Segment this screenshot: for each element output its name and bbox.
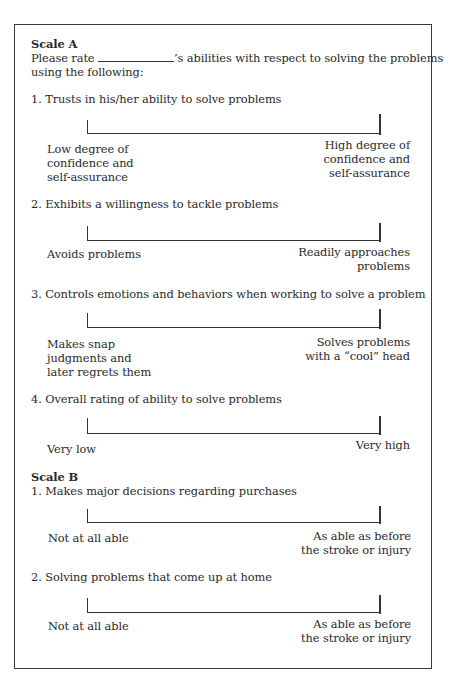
name-blank-field[interactable] xyxy=(98,51,174,62)
anchor-line: problems xyxy=(298,259,410,273)
scale-a-heading: Scale A xyxy=(31,37,77,51)
right-anchor-a4: Very high xyxy=(356,438,410,452)
item-number: 2. xyxy=(31,570,42,584)
anchor-line: High degree of xyxy=(323,138,410,152)
item-number: 2. xyxy=(31,197,42,211)
rating-line-a1[interactable] xyxy=(87,120,379,134)
scale-a-instruction: Please rate ’s abilities with respect to… xyxy=(31,51,443,65)
right-tick xyxy=(379,595,381,614)
scale-b-item-2: 2. Solving problems that come up at home xyxy=(31,570,272,584)
right-tick xyxy=(379,114,381,135)
anchor-line: As able as before xyxy=(301,529,411,543)
scale-a-item-1: 1. Trusts in his/her ability to solve pr… xyxy=(31,92,281,106)
anchor-line: Very high xyxy=(356,438,410,452)
instruction-prefix: Please rate xyxy=(31,51,95,65)
anchor-line: confidence and xyxy=(47,156,134,170)
item-number: 1. xyxy=(31,484,42,498)
anchor-line: judgments and xyxy=(47,351,151,365)
left-anchor-a4: Very low xyxy=(47,442,96,456)
scale-b-heading: Scale B xyxy=(31,470,78,484)
scale-a-item-2: 2. Exhibits a willingness to tackle prob… xyxy=(31,197,278,211)
left-anchor-a1: Low degree of confidence and self-assura… xyxy=(47,142,134,184)
anchor-line: Makes snap xyxy=(47,337,151,351)
rating-line-b2[interactable] xyxy=(87,598,379,613)
scale-a-item-4: 4. Overall rating of ability to solve pr… xyxy=(31,392,282,406)
scale-a-item-3: 3. Controls emotions and behaviors when … xyxy=(31,287,425,301)
item-text: Trusts in his/her ability to solve probl… xyxy=(45,92,281,106)
right-anchor-b2: As able as before the stroke or injury xyxy=(301,617,411,645)
left-anchor-b2: Not at all able xyxy=(48,619,129,633)
item-text: Overall rating of ability to solve probl… xyxy=(45,392,282,406)
anchor-line: self-assurance xyxy=(323,166,410,180)
right-tick xyxy=(379,309,381,329)
anchor-line: later regrets them xyxy=(47,365,151,379)
anchor-line: the stroke or injury xyxy=(301,543,411,557)
left-anchor-a2: Avoids problems xyxy=(47,247,141,261)
anchor-line: Solves problems xyxy=(305,335,410,349)
anchor-line: Not at all able xyxy=(48,531,129,545)
right-anchor-a3: Solves problems with a “cool” head xyxy=(305,335,410,363)
right-tick xyxy=(379,416,381,435)
anchor-line: the stroke or injury xyxy=(301,631,411,645)
anchor-line: As able as before xyxy=(301,617,411,631)
scale-a-instruction-line2: using the following: xyxy=(31,65,143,79)
item-number: 1. xyxy=(31,92,42,106)
anchor-line: Low degree of xyxy=(47,142,134,156)
item-text: Makes major decisions regarding purchase… xyxy=(45,484,297,498)
right-anchor-a2: Readily approaches problems xyxy=(298,245,410,273)
instruction-suffix: ’s abilities with respect to solving the… xyxy=(174,51,443,65)
anchor-line: with a “cool” head xyxy=(305,349,410,363)
scale-b-item-1: 1. Makes major decisions regarding purch… xyxy=(31,484,297,498)
rating-line-a4[interactable] xyxy=(87,418,379,434)
anchor-line: self-assurance xyxy=(47,170,134,184)
left-anchor-b1: Not at all able xyxy=(48,531,129,545)
anchor-line: confidence and xyxy=(323,152,410,166)
item-number: 3. xyxy=(31,287,42,301)
right-anchor-a1: High degree of confidence and self-assur… xyxy=(323,138,410,180)
anchor-line: Not at all able xyxy=(48,619,129,633)
right-anchor-b1: As able as before the stroke or injury xyxy=(301,529,411,557)
right-tick xyxy=(379,223,381,242)
rating-line-a3[interactable] xyxy=(87,313,379,328)
rating-line-a2[interactable] xyxy=(87,226,379,241)
anchor-line: Very low xyxy=(47,442,96,456)
rating-line-b1[interactable] xyxy=(87,509,379,523)
item-text: Exhibits a willingness to tackle problem… xyxy=(45,197,278,211)
item-text: Solving problems that come up at home xyxy=(45,570,272,584)
left-anchor-a3: Makes snap judgments and later regrets t… xyxy=(47,337,151,379)
anchor-line: Avoids problems xyxy=(47,247,141,261)
item-number: 4. xyxy=(31,392,42,406)
item-text: Controls emotions and behaviors when wor… xyxy=(45,287,425,301)
anchor-line: Readily approaches xyxy=(298,245,410,259)
right-tick xyxy=(379,506,381,524)
